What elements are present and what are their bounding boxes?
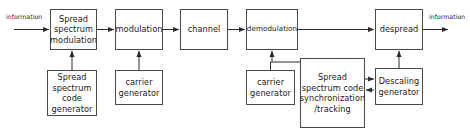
block-descaling-generator[interactable]: Descaling generator — [375, 68, 423, 105]
block-channel[interactable]: channel — [180, 9, 228, 50]
block-demodulation[interactable]: demodulation — [246, 9, 298, 50]
block-spread-spectrum-code-synchronization-tracking[interactable]: Spread spectrum code synchronization /tr… — [300, 58, 365, 128]
label-information-output: information — [429, 13, 465, 20]
block-modulation[interactable]: modulation — [115, 9, 163, 50]
line-carrier-generator-rx-riser — [271, 62, 273, 70]
block-spread-spectrum-code-generator[interactable]: Spread spectrum code generator — [47, 70, 97, 116]
block-diagram: Spread spectrum modulation Spread spectr… — [0, 0, 470, 132]
block-despread[interactable]: despread — [375, 9, 423, 50]
label-information-input: information — [6, 13, 42, 20]
block-carrier-generator-rx[interactable]: carrier generator — [246, 70, 295, 105]
block-carrier-generator-tx[interactable]: carrier generator — [115, 70, 163, 105]
block-spread-spectrum-modulation[interactable]: Spread spectrum modulation — [50, 9, 97, 50]
